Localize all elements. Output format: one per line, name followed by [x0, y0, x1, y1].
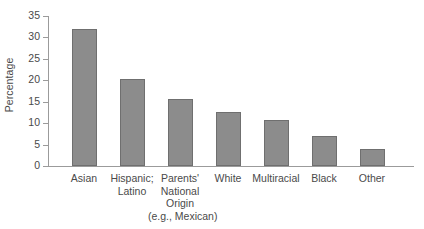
y-axis-tick: 15	[43, 102, 48, 103]
y-axis-tick-label: 15	[28, 95, 40, 108]
x-axis-category-label-line: National	[148, 185, 212, 198]
y-axis-tick-label: 35	[28, 9, 40, 22]
x-axis-line	[48, 166, 414, 167]
y-axis-tick-label: 25	[28, 52, 40, 65]
bar	[312, 136, 337, 166]
y-axis-line	[48, 16, 49, 167]
bar	[264, 120, 289, 166]
y-axis-tick: 25	[43, 59, 48, 60]
x-axis-category-label: Other	[340, 172, 404, 185]
x-axis-category-label-line: (e.g., Mexican)	[148, 210, 212, 223]
x-axis-category-label-line: Origin	[148, 197, 212, 210]
plot-area: 05101520253035 AsianHispanic;LatinoParen…	[48, 0, 416, 229]
bar	[120, 79, 145, 166]
bar	[216, 112, 241, 166]
y-axis-tick: 20	[43, 80, 48, 81]
y-axis-tick: 5	[43, 145, 48, 146]
bar	[72, 29, 97, 166]
bar	[360, 149, 385, 166]
y-axis-title: Percentage	[0, 0, 18, 170]
x-axis-category-label-line: Other	[340, 172, 404, 185]
y-axis-tick-label: 30	[28, 30, 40, 43]
bar	[168, 99, 193, 166]
y-axis-tick-label: 10	[28, 116, 40, 129]
y-axis-tick-label: 0	[34, 159, 40, 172]
y-axis-title-text: Percentage	[3, 58, 15, 113]
y-axis-tick: 30	[43, 37, 48, 38]
y-axis-tick-label: 20	[28, 73, 40, 86]
y-axis-tick: 35	[43, 16, 48, 17]
y-axis-tick-label: 5	[34, 138, 40, 151]
y-axis-tick: 10	[43, 123, 48, 124]
bar-chart: Percentage 05101520253035 AsianHispanic;…	[0, 0, 424, 229]
y-axis-tick: 0	[43, 166, 48, 167]
